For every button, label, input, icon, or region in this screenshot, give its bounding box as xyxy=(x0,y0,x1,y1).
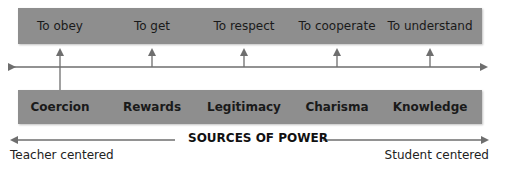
motivation-label-cooperate: To cooperate xyxy=(298,19,375,33)
motivation-label-respect: To respect xyxy=(213,19,274,33)
motivation-label-understand: To understand xyxy=(387,19,472,33)
motivation-label-obey: To obey xyxy=(37,19,83,33)
source-label-knowledge: Knowledge xyxy=(393,100,468,114)
source-label-legitimacy: Legitimacy xyxy=(207,100,281,114)
motivation-label-get: To get xyxy=(134,19,170,33)
source-label-rewards: Rewards xyxy=(123,100,181,114)
source-label-charisma: Charisma xyxy=(305,100,368,114)
student-centered-label: Student centered xyxy=(385,148,489,162)
teacher-centered-label: Teacher centered xyxy=(10,148,114,162)
diagram-title: SOURCES OF POWER xyxy=(188,131,328,145)
source-label-coercion: Coercion xyxy=(30,100,89,114)
